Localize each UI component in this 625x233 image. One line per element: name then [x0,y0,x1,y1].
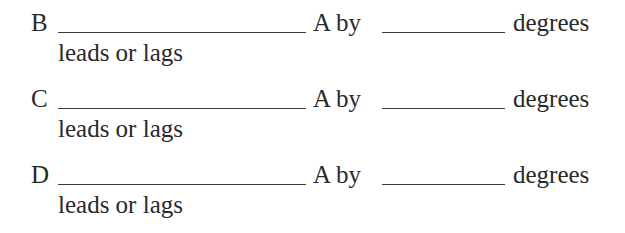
question-row-b: B A by degrees leads or lags [0,0,625,70]
unit-text: degrees [513,84,589,114]
leads-or-lags-blank[interactable] [58,184,306,185]
degrees-blank[interactable] [382,108,505,109]
reference-text: A by [313,160,361,190]
leads-or-lags-blank[interactable] [58,32,306,33]
row-label: D [31,160,49,190]
question-row-c: C A by degrees leads or lags [0,76,625,146]
unit-text: degrees [513,160,589,190]
leads-or-lags-blank[interactable] [58,108,306,109]
degrees-blank[interactable] [382,32,505,33]
reference-text: A by [313,8,361,38]
unit-text: degrees [513,8,589,38]
question-row-d: D A by degrees leads or lags [0,152,625,222]
row-label: B [31,8,48,38]
blank-hint: leads or lags [58,190,183,220]
row-label: C [31,84,48,114]
reference-text: A by [313,84,361,114]
degrees-blank[interactable] [382,184,505,185]
blank-hint: leads or lags [58,114,183,144]
blank-hint: leads or lags [58,38,183,68]
